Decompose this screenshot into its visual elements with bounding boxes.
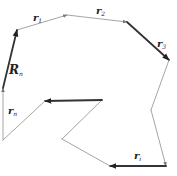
- label-Rn-resultant: Rn: [9, 64, 23, 80]
- label-ri: ri: [134, 151, 141, 164]
- vector-polygon-diagram: [0, 0, 177, 176]
- vector-seg-h-i: [62, 100, 102, 139]
- vector-seg-i-j: [45, 100, 102, 101]
- label-r2: r2: [96, 6, 105, 19]
- label-r1: r1: [33, 13, 42, 26]
- label-rn: rn: [8, 106, 17, 119]
- vector-seg-d-e: [151, 60, 169, 110]
- label-r3: r3: [157, 39, 166, 52]
- vector-seg-g-h: [62, 139, 110, 166]
- vector-seg-e-f: [151, 110, 166, 166]
